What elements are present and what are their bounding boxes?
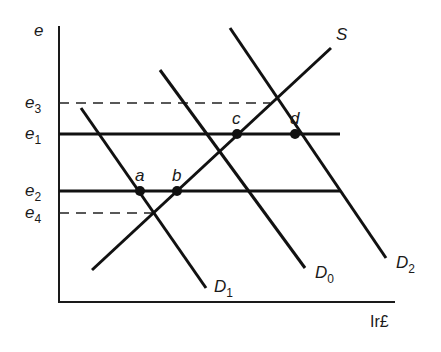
point-b (172, 186, 182, 196)
curve-D0 (160, 70, 305, 268)
level-label-e1: e1 (25, 124, 41, 147)
curve-S (92, 48, 331, 270)
curve-label-D0: D0 (315, 263, 334, 286)
point-label-b: b (172, 166, 181, 185)
y-axis-label: e (34, 21, 43, 40)
exchange-rate-diagram: e Ir£ e3e1e2e4 SD1D0D2 abcd (0, 0, 441, 352)
curve-label-D1: D1 (214, 277, 233, 300)
level-label-e4: e4 (25, 203, 41, 226)
x-axis-label: Ir£ (370, 313, 389, 330)
curve-D2 (230, 28, 386, 258)
level-label-e3: e3 (25, 93, 41, 116)
point-label-d: d (290, 109, 300, 128)
curve-label-D2: D2 (396, 253, 415, 276)
point-d (290, 129, 300, 139)
point-a (135, 186, 145, 196)
point-label-c: c (232, 109, 241, 128)
point-c (232, 129, 242, 139)
level-label-e2: e2 (25, 181, 41, 204)
point-label-a: a (135, 166, 144, 185)
supply-demand-curves: SD1D0D2 (81, 25, 415, 300)
curve-label-S: S (336, 25, 348, 44)
